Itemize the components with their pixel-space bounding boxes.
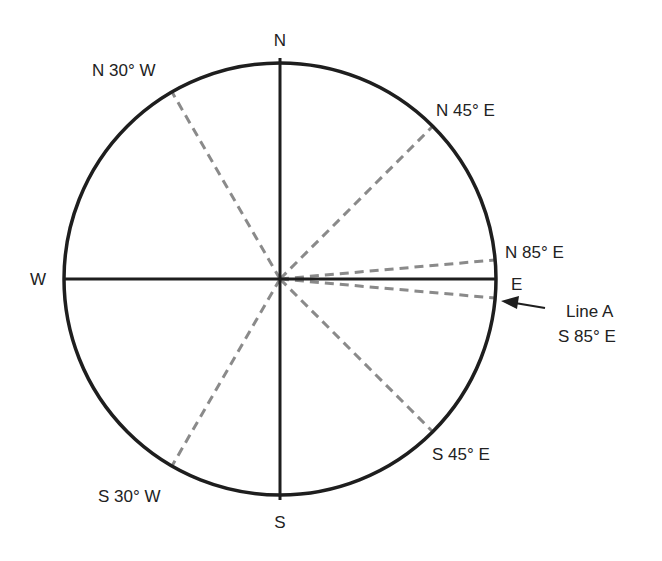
bearing-line-s85e-line-a bbox=[280, 279, 495, 298]
label-west: W bbox=[30, 270, 46, 289]
compass-diagram: N S W E N 30° W N 45° E N 85° E Line A S… bbox=[0, 0, 662, 561]
label-line-a: Line A bbox=[566, 302, 614, 321]
bearing-line-s45e bbox=[280, 279, 433, 432]
bearing-diagram: N S W E N 30° W N 45° E N 85° E Line A S… bbox=[0, 0, 662, 561]
label-north: N bbox=[274, 31, 286, 50]
bearing-line-n85e bbox=[280, 260, 495, 279]
label-s45e: S 45° E bbox=[432, 445, 490, 464]
label-s85e: S 85° E bbox=[558, 327, 616, 346]
label-n30w: N 30° W bbox=[92, 61, 155, 80]
label-south: S bbox=[274, 513, 285, 532]
line-a-arrow bbox=[501, 296, 545, 309]
label-s30w: S 30° W bbox=[98, 487, 161, 506]
bearing-line-s30w bbox=[172, 279, 280, 466]
label-n85e: N 85° E bbox=[505, 243, 564, 262]
label-n45e: N 45° E bbox=[436, 101, 495, 120]
bearing-line-n30w bbox=[172, 92, 280, 279]
label-east: E bbox=[511, 275, 522, 294]
bearing-line-n45e bbox=[280, 126, 433, 279]
